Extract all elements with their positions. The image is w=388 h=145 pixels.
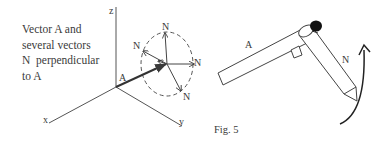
- normal-vector-left: [143, 51, 167, 64]
- caption-line-1: Vector A and: [22, 23, 81, 35]
- x-axis: [49, 87, 116, 123]
- pencil-eraser-knob: [310, 21, 322, 32]
- normal-label-top: N: [162, 22, 169, 32]
- y-axis-label: y: [179, 117, 184, 127]
- caption-line-2: several vectors: [22, 39, 91, 51]
- caption-line-3: N perpendicular: [22, 54, 99, 66]
- figure-canvas: Vector A and several vectors N perpendic…: [0, 0, 388, 145]
- normal-label-right: N: [194, 58, 201, 68]
- normal-vectors: [143, 33, 194, 91]
- y-axis: [116, 87, 182, 126]
- x-axis-label: x: [43, 115, 48, 125]
- normal-vector-down: [167, 64, 181, 91]
- vector-a-label: A: [119, 73, 126, 83]
- vector-caption: Vector A and several vectors N perpendic…: [22, 22, 99, 84]
- caption-line-4: to A: [22, 70, 42, 82]
- normal-vector-up: [165, 33, 167, 64]
- pencil-n-label: N: [342, 55, 349, 65]
- normal-label-left: N: [133, 41, 140, 51]
- z-axis-label: z: [109, 6, 113, 16]
- rod-a-label: A: [245, 40, 252, 50]
- normal-label-bottom: N: [183, 92, 190, 102]
- rod-a: [218, 28, 311, 85]
- figure-label: Fig. 5: [214, 124, 239, 135]
